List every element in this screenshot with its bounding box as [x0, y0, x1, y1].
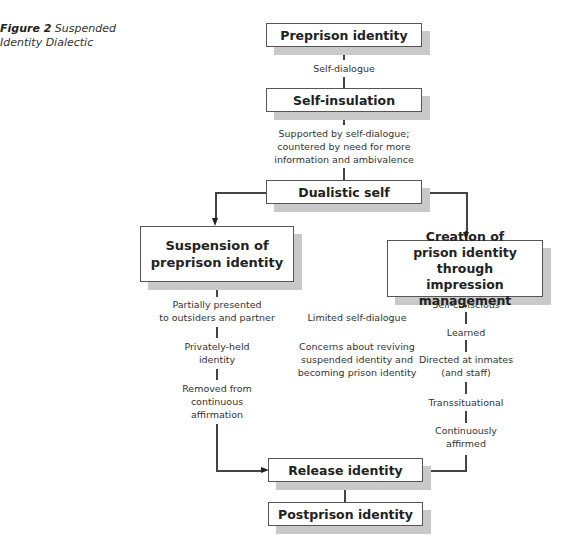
connector-line	[465, 455, 467, 471]
left-item-privately-held: Privately-held identity	[184, 340, 249, 366]
node-dualistic-self: Dualistic self	[266, 180, 422, 204]
node-label: Postprison identity	[278, 506, 413, 523]
node-label: Suspension of preprison identity	[151, 237, 283, 271]
text-line: Privately-held	[184, 341, 249, 352]
node-label: Creation of prison identity through impr…	[388, 229, 542, 309]
node-label: Preprison identity	[280, 27, 407, 44]
text-line: affirmation	[191, 409, 243, 420]
node-self-insulation: Self-insulation	[266, 88, 422, 112]
connector-line	[343, 168, 345, 180]
text-line: Partially presented	[172, 299, 261, 310]
text-line: (and staff)	[441, 367, 490, 378]
figure-title-line2: Identity Dialectic	[0, 36, 93, 49]
right-item-continuously-affirmed: Continuously affirmed	[435, 424, 497, 450]
figure-caption: Figure 2 Suspended Identity Dialectic	[0, 22, 116, 50]
middle-item-limited-self-dialogue: Limited self-dialogue	[308, 311, 407, 324]
left-item-partially-presented: Partially presented to outsiders and par…	[159, 298, 275, 324]
text-line: prison identity through	[413, 245, 517, 276]
text-line: to outsiders and partner	[159, 312, 275, 323]
connector-line	[431, 470, 467, 472]
text-line: preprison identity	[151, 255, 283, 270]
text-line: Continuously	[435, 425, 497, 436]
text-line: suspended identity and	[301, 354, 413, 365]
arrow-down-icon	[212, 218, 218, 226]
middle-item-concerns: Concerns about reviving suspended identi…	[298, 340, 417, 379]
connector-line	[216, 470, 261, 472]
text-line: continuous	[191, 396, 243, 407]
connector-line	[216, 424, 218, 471]
connector-line	[343, 77, 345, 88]
connector-line	[215, 192, 266, 194]
figure-title-line1: Suspended	[55, 22, 116, 35]
connector-line	[465, 340, 467, 352]
node-postprison-identity: Postprison identity	[268, 502, 423, 526]
connector-line	[216, 327, 218, 338]
text-line: becoming prison identity	[298, 367, 417, 378]
text-line: countered by need for more	[277, 141, 410, 152]
text-line: information and ambivalence	[274, 154, 414, 165]
right-item-learned: Learned	[447, 326, 485, 339]
node-label: Dualistic self	[298, 184, 389, 201]
text-line: Suspension of	[165, 238, 268, 253]
connector-line	[465, 312, 467, 324]
text-line: Directed at inmates	[419, 354, 513, 365]
node-label: Self-insulation	[293, 92, 395, 109]
edge-label-supported: Supported by self-dialogue; countered by…	[274, 127, 414, 166]
connector-line	[216, 369, 218, 380]
text-line: identity	[199, 354, 235, 365]
text-line: Concerns about reviving	[299, 341, 415, 352]
connector-line	[215, 192, 217, 219]
edge-label-self-dialogue: Self-dialogue	[313, 62, 375, 75]
text-line: Removed from	[182, 383, 252, 394]
left-item-removed-from-affirmation: Removed from continuous affirmation	[182, 382, 252, 421]
right-item-directed-at-inmates: Directed at inmates (and staff)	[419, 353, 513, 379]
right-item-transsituational: Transsituational	[429, 396, 504, 409]
node-label: Release identity	[288, 462, 403, 479]
figure-label: Figure 2	[0, 22, 51, 35]
connector-line	[465, 382, 467, 394]
text-line: affirmed	[446, 438, 486, 449]
connector-line	[465, 411, 467, 423]
node-creation-of-prison-identity: Creation of prison identity through impr…	[387, 240, 543, 297]
node-preprison-identity: Preprison identity	[266, 23, 422, 47]
text-line: Supported by self-dialogue;	[279, 128, 410, 139]
text-line: impression management	[419, 277, 512, 308]
text-line: Creation of	[426, 229, 504, 244]
node-suspension-of-preprison-identity: Suspension of preprison identity	[140, 226, 294, 282]
connector-line	[466, 192, 468, 233]
node-release-identity: Release identity	[268, 458, 423, 482]
